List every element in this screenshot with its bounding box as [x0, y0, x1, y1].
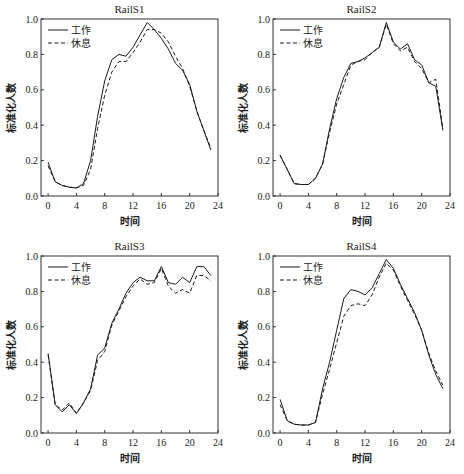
legend: 工作休息	[48, 25, 91, 49]
legend-label: 工作	[71, 25, 91, 36]
x-tick-label: 20	[417, 200, 427, 211]
plot-frame	[41, 19, 218, 196]
y-axis-label: 标准化人数	[5, 319, 17, 371]
x-tick-label: 20	[185, 200, 195, 211]
y-tick-label: 0.4	[258, 357, 271, 368]
x-tick-label: 4	[74, 437, 79, 448]
legend-label: 休息	[303, 274, 323, 286]
y-tick-label: 0.0	[26, 428, 39, 439]
x-tick-label: 16	[156, 437, 166, 448]
x-tick-label: 8	[102, 200, 107, 211]
x-tick-label: 16	[388, 200, 398, 211]
chart-rails1: RailS1048121620240.00.20.40.60.81.0时间标准化…	[0, 0, 232, 237]
y-tick-label: 0.2	[258, 392, 271, 403]
legend-label: 休息	[303, 37, 323, 49]
x-tick-label: 12	[128, 200, 138, 211]
x-tick-label: 4	[306, 437, 311, 448]
y-tick-label: 1.0	[26, 251, 39, 262]
x-tick-label: 0	[278, 437, 283, 448]
chart-title: RailS1	[115, 3, 145, 15]
x-tick-label: 12	[360, 437, 370, 448]
x-tick-label: 24	[213, 200, 223, 211]
y-tick-label: 0.4	[26, 357, 39, 368]
x-tick-label: 12	[360, 200, 370, 211]
x-tick-label: 16	[388, 437, 398, 448]
x-tick-label: 8	[334, 200, 339, 211]
chart-title: RailS4	[347, 240, 377, 252]
y-tick-label: 1.0	[258, 251, 271, 262]
legend: 工作休息	[280, 262, 323, 286]
x-axis-label: 时间	[120, 215, 140, 227]
y-axis-label: 标准化人数	[5, 82, 17, 134]
chart-grid: RailS1048121620240.00.20.40.60.81.0时间标准化…	[0, 0, 464, 474]
y-tick-label: 0.8	[26, 286, 39, 297]
x-tick-label: 24	[213, 437, 223, 448]
y-tick-label: 0.6	[26, 84, 39, 95]
x-tick-label: 4	[74, 200, 79, 211]
x-tick-label: 8	[334, 437, 339, 448]
y-tick-label: 0.8	[258, 49, 271, 60]
y-tick-label: 0.2	[26, 392, 39, 403]
series-rest-line	[280, 263, 443, 425]
x-tick-label: 24	[445, 200, 455, 211]
chart-rails3: RailS3048121620240.00.20.40.60.81.0时间标准化…	[0, 237, 232, 474]
legend-label: 休息	[71, 274, 91, 286]
x-tick-label: 0	[46, 200, 51, 211]
y-tick-label: 1.0	[258, 14, 271, 25]
x-axis-label: 时间	[120, 452, 140, 464]
y-tick-label: 0.2	[26, 155, 39, 166]
x-tick-label: 4	[306, 200, 311, 211]
y-axis-label: 标准化人数	[237, 319, 249, 371]
y-tick-label: 0.8	[258, 286, 271, 297]
legend-label: 休息	[71, 37, 91, 49]
chart-rails2: RailS2048121620240.00.20.40.60.81.0时间标准化…	[232, 0, 464, 237]
legend-label: 工作	[71, 262, 91, 273]
y-tick-label: 0.8	[26, 49, 39, 60]
legend-label: 工作	[303, 262, 323, 273]
x-tick-label: 0	[46, 437, 51, 448]
y-tick-label: 0.4	[258, 120, 271, 131]
y-tick-label: 0.6	[258, 84, 271, 95]
x-tick-label: 12	[128, 437, 138, 448]
legend-label: 工作	[303, 25, 323, 36]
y-tick-label: 1.0	[26, 14, 39, 25]
y-tick-label: 0.0	[258, 428, 271, 439]
legend: 工作休息	[280, 25, 323, 49]
plot-frame	[273, 19, 450, 196]
x-axis-label: 时间	[352, 215, 372, 227]
series-rest-line	[48, 30, 211, 188]
plot-frame	[273, 256, 450, 433]
chart-title: RailS3	[115, 240, 145, 252]
y-tick-label: 0.4	[26, 120, 39, 131]
legend: 工作休息	[48, 262, 91, 286]
series-work-line	[48, 267, 211, 414]
y-tick-label: 0.6	[258, 321, 271, 332]
y-axis-label: 标准化人数	[237, 82, 249, 134]
y-tick-label: 0.0	[258, 191, 271, 202]
y-tick-label: 0.0	[26, 191, 39, 202]
x-tick-label: 8	[102, 437, 107, 448]
x-tick-label: 20	[417, 437, 427, 448]
chart-title: RailS2	[347, 3, 377, 15]
x-tick-label: 24	[445, 437, 455, 448]
y-tick-label: 0.2	[258, 155, 271, 166]
x-tick-label: 0	[278, 200, 283, 211]
chart-rails4: RailS4048121620240.00.20.40.60.81.0时间标准化…	[232, 237, 464, 474]
x-axis-label: 时间	[352, 452, 372, 464]
series-rest-line	[48, 268, 211, 413]
x-tick-label: 20	[185, 437, 195, 448]
x-tick-label: 16	[156, 200, 166, 211]
y-tick-label: 0.6	[26, 321, 39, 332]
